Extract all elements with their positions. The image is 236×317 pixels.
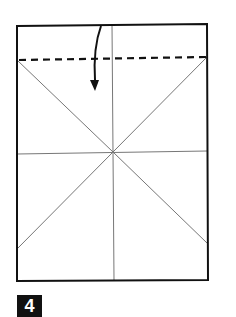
origami-diagram	[0, 0, 236, 317]
step-number-badge: 4	[17, 295, 42, 317]
crease-lines	[17, 25, 207, 280]
diagonal-crease-bottom-left	[18, 152, 113, 248]
diagonal-crease-top-left	[17, 60, 113, 152]
diagonal-crease-bottom-right	[113, 152, 207, 243]
diagonal-crease-top-right	[113, 57, 207, 152]
